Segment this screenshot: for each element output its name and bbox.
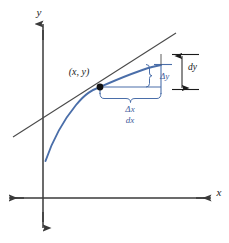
- differential-diagram: y x: [0, 0, 229, 243]
- delta-x-label: Δx: [124, 104, 134, 114]
- dx-label: dx: [126, 115, 135, 125]
- axes-group: y x: [9, 6, 222, 228]
- tangent-line-group: [13, 33, 176, 137]
- tangent-point-dot: [97, 84, 104, 91]
- dy-label: dy: [188, 62, 198, 72]
- point-label: (x, y): [69, 66, 90, 78]
- y-axis-label: y: [36, 6, 42, 18]
- diagram-canvas: y x: [0, 0, 229, 243]
- delta-x-brace: [100, 93, 161, 103]
- tangent-line: [13, 33, 176, 137]
- tangent-point-group: [97, 84, 104, 91]
- delta-y-label: Δy: [159, 71, 169, 81]
- x-axis-label: x: [216, 186, 222, 198]
